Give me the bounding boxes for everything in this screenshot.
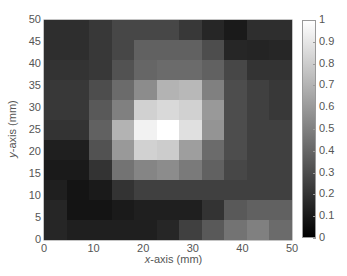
heatmap-cell	[112, 140, 135, 160]
heatmap-cell	[134, 40, 157, 60]
colorbar-tick-label: 0.7	[319, 79, 334, 90]
heatmap-cell	[89, 40, 112, 60]
heatmap-cell	[134, 20, 157, 40]
heatmap-cell	[179, 60, 202, 80]
y-axis-label-text: -axis (mm)	[6, 100, 18, 152]
heatmap-cell	[179, 160, 202, 180]
heatmap-cell	[112, 60, 135, 80]
heatmap-cell	[224, 20, 247, 40]
heatmap-cell	[44, 60, 67, 80]
colorbar-tick-mark	[313, 238, 316, 239]
heatmap-cell	[44, 160, 67, 180]
heatmap-cell	[67, 80, 90, 100]
heatmap-cell	[134, 100, 157, 120]
heatmap-cell	[112, 20, 135, 40]
heatmap-cell	[157, 60, 180, 80]
heatmap-cell	[67, 60, 90, 80]
heatmap-cell	[44, 100, 67, 120]
heatmap-cell	[44, 200, 67, 220]
heatmap-cell	[224, 160, 247, 180]
heatmap-cell	[224, 140, 247, 160]
y-tick-label: 25	[17, 124, 41, 135]
y-tick-label: 5	[17, 212, 41, 223]
heatmap-cell	[179, 140, 202, 160]
heatmap-cell	[202, 220, 225, 240]
heatmap-cell	[157, 100, 180, 120]
heatmap-cell	[202, 140, 225, 160]
colorbar-tick-label: 0	[319, 232, 325, 243]
heatmap-cell	[134, 180, 157, 200]
heatmap-cell	[247, 60, 270, 80]
colorbar-tick-mark	[313, 64, 316, 65]
heatmap-cell	[157, 120, 180, 140]
heatmap-cell	[67, 160, 90, 180]
colorbar-tick-mark	[313, 42, 316, 43]
heatmap-cell	[224, 40, 247, 60]
colorbar-tick-mark	[313, 107, 316, 108]
heatmap-cell	[224, 80, 247, 100]
heatmap-cell	[269, 100, 292, 120]
heatmap-cell	[269, 160, 292, 180]
y-tick-label: 15	[17, 168, 41, 179]
heatmap-cell	[247, 100, 270, 120]
heatmap-cell	[44, 80, 67, 100]
heatmap-cell	[44, 140, 67, 160]
heatmap-cell	[134, 60, 157, 80]
heatmap-cell	[179, 100, 202, 120]
heatmap-cell	[157, 140, 180, 160]
heatmap-cell	[269, 40, 292, 60]
heatmap-cell	[44, 220, 67, 240]
heatmap-cell	[202, 60, 225, 80]
heatmap-cell	[202, 180, 225, 200]
heatmap-cell	[202, 100, 225, 120]
heatmap-cell	[224, 180, 247, 200]
heatmap-cell	[269, 140, 292, 160]
heatmap-cell	[224, 120, 247, 140]
heatmap-cell	[247, 180, 270, 200]
heatmap-cell	[112, 80, 135, 100]
colorbar-tick-mark	[313, 173, 316, 174]
heatmap-cell	[179, 120, 202, 140]
heatmap-cell	[89, 220, 112, 240]
colorbar-tick-mark	[313, 129, 316, 130]
heatmap-cell	[67, 220, 90, 240]
y-axis-label-var: y	[6, 152, 18, 158]
heatmap-cell	[134, 200, 157, 220]
heatmap-cell	[67, 100, 90, 120]
colorbar-tick-mark	[313, 216, 316, 217]
heatmap-cell	[89, 100, 112, 120]
heatmap-cell	[202, 80, 225, 100]
colorbar-tick-label: 0.8	[319, 58, 334, 69]
heatmap-cell	[269, 60, 292, 80]
heatmap-cell	[89, 80, 112, 100]
colorbar-tick-label: 1	[319, 14, 325, 25]
heatmap-cell	[157, 80, 180, 100]
heatmap-cell	[67, 120, 90, 140]
y-tick-label: 35	[17, 80, 41, 91]
x-axis-label-text: -axis (mm)	[150, 253, 202, 265]
heatmap-cell	[112, 200, 135, 220]
heatmap-cell	[269, 120, 292, 140]
heatmap-cell	[112, 120, 135, 140]
heatmap-cell	[112, 160, 135, 180]
colorbar-tick-label: 0.2	[319, 188, 334, 199]
colorbar-tick-label: 0.6	[319, 101, 334, 112]
heatmap-cell	[179, 200, 202, 220]
heatmap-cell	[179, 80, 202, 100]
heatmap-cell	[112, 180, 135, 200]
y-tick-label: 50	[17, 14, 41, 25]
heatmap-plot-area	[44, 20, 292, 240]
heatmap-cell	[44, 20, 67, 40]
heatmap-cell	[67, 180, 90, 200]
heatmap-cell	[269, 80, 292, 100]
heatmap-cell	[134, 120, 157, 140]
heatmap-cell	[224, 200, 247, 220]
heatmap-cell	[269, 220, 292, 240]
heatmap-cell	[247, 160, 270, 180]
heatmap-cell	[67, 140, 90, 160]
y-tick-label: 45	[17, 36, 41, 47]
heatmap-cell	[112, 40, 135, 60]
heatmap-cell	[247, 140, 270, 160]
y-tick-label: 20	[17, 146, 41, 157]
heatmap-cell	[89, 140, 112, 160]
